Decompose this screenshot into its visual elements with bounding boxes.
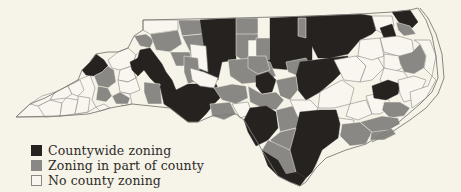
legend-label-none: No county zoning (48, 173, 161, 188)
legend-item-countywide: Countywide zoning (31, 143, 204, 158)
none-swatch (31, 175, 42, 186)
partial-swatch (31, 160, 42, 171)
map-legend: Countywide zoning Zoning in part of coun… (31, 143, 204, 188)
legend-item-partial: Zoning in part of county (31, 158, 204, 173)
legend-label-countywide: Countywide zoning (48, 143, 171, 158)
legend-item-none: No county zoning (31, 173, 204, 188)
countywide-swatch (31, 145, 42, 156)
legend-label-partial: Zoning in part of county (48, 158, 204, 173)
